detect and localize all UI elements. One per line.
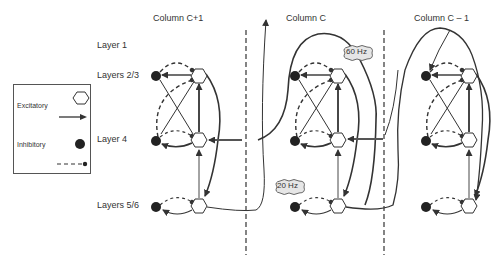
column-c-plus-1-circuit (151, 63, 220, 214)
beta-frequency-label: 20 Hz (277, 181, 298, 190)
interconnect-c-plus-1-l56-to-c (207, 20, 266, 211)
excitatory-cell (191, 69, 207, 83)
excitatory-cell (330, 199, 346, 213)
inhibitory-cell (421, 202, 431, 212)
inhibitory-cell (151, 202, 161, 212)
excitatory-cell (461, 133, 477, 147)
excitatory-cell (191, 133, 207, 147)
interconnect-short-c-minus-1 (385, 70, 398, 135)
excitatory-cell (191, 199, 207, 213)
excitatory-cell (330, 133, 346, 147)
excitatory-cell (461, 199, 477, 213)
inhibitory-cell (421, 136, 431, 146)
inhibitory-cell (290, 71, 300, 81)
inhibitory-cell (290, 202, 300, 212)
inhibitory-cell (290, 136, 300, 146)
gamma-frequency-label: 60 Hz (346, 47, 367, 56)
interconnect-top-to-c-minus-1-inhib (430, 30, 450, 70)
inhibitory-cell (151, 71, 161, 81)
excitatory-cell (461, 69, 477, 83)
cortical-column-diagram (0, 0, 504, 268)
inhibitory-cell (151, 136, 161, 146)
excitatory-cell (330, 69, 346, 83)
inhibitory-cell (421, 71, 431, 81)
